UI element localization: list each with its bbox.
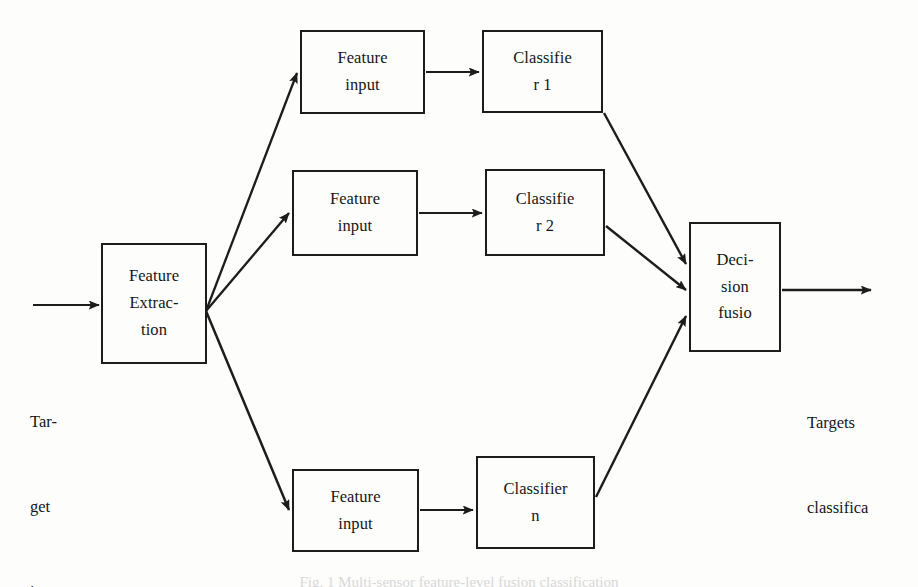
node-feature-extraction[interactable]: Feature Extrac- tion	[101, 243, 207, 364]
diagram-canvas: Feature Extrac- tion Feature input Featu…	[0, 0, 918, 587]
node-feature-input-1[interactable]: Feature input	[300, 30, 425, 114]
label-target-input: Tar- get input	[30, 351, 64, 587]
node-feature-input-1-line-2: input	[345, 72, 379, 99]
node-feature-input-2-line-1: Feature	[330, 186, 380, 213]
edge-extraction-to-feature-1	[206, 73, 297, 311]
node-feature-extraction-line-3: tion	[141, 317, 167, 344]
node-decision-fusion-line-1: Deci-	[716, 247, 753, 274]
node-decision-fusion[interactable]: Deci- sion fusio	[689, 222, 781, 352]
node-classifier-n[interactable]: Classifier n	[476, 456, 595, 549]
node-classifier-2[interactable]: Classifie r 2	[485, 169, 605, 256]
node-feature-input-3-line-1: Feature	[330, 484, 380, 511]
node-feature-input-3-line-2: input	[338, 511, 372, 538]
edge-extraction-to-feature-3	[206, 311, 289, 510]
node-feature-input-2[interactable]: Feature input	[292, 170, 418, 256]
edge-extraction-to-feature-2	[206, 213, 289, 311]
label-targets-classification: Targets classifica -tion	[807, 352, 868, 587]
node-classifier-2-line-2: r 2	[536, 213, 554, 240]
node-classifier-1-line-2: r 1	[533, 72, 551, 99]
node-decision-fusion-line-2: sion	[721, 274, 749, 301]
label-targets-classification-line-1: Targets	[807, 409, 868, 437]
label-targets-classification-line-2: classifica	[807, 494, 868, 522]
node-feature-input-2-line-2: input	[338, 213, 372, 240]
node-feature-input-1-line-1: Feature	[337, 45, 387, 72]
label-target-input-line-1: Tar-	[30, 408, 64, 436]
node-classifier-1[interactable]: Classifie r 1	[482, 30, 603, 113]
node-classifier-2-line-1: Classifie	[516, 186, 575, 213]
node-feature-extraction-line-2: Extrac-	[129, 290, 178, 317]
node-classifier-n-line-2: n	[531, 503, 539, 530]
node-feature-extraction-line-1: Feature	[129, 263, 179, 290]
edge-classifier-2-to-fusion	[606, 226, 686, 290]
node-decision-fusion-line-3: fusio	[718, 300, 752, 327]
node-feature-input-3[interactable]: Feature input	[292, 469, 419, 552]
figure-caption-clipped: Fig. 1 Multi-sensor feature-level fusion…	[0, 573, 918, 587]
edge-classifier-n-to-fusion	[596, 316, 686, 497]
label-target-input-line-2: get	[30, 493, 64, 521]
edge-classifier-1-to-fusion	[604, 113, 686, 264]
node-classifier-n-line-1: Classifier	[503, 476, 567, 503]
node-classifier-1-line-1: Classifie	[513, 45, 572, 72]
figure-caption-text: Fig. 1 Multi-sensor feature-level fusion…	[0, 574, 918, 587]
